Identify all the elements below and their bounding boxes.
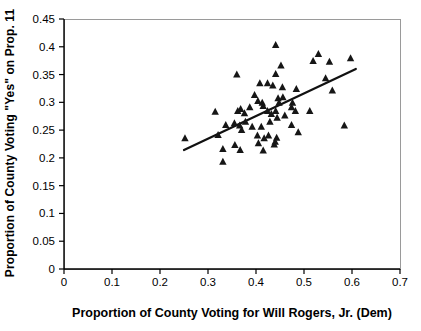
x-tick-label: 0	[61, 276, 67, 288]
scatter-chart: Proportion of County Voting "Yes" on Pro…	[0, 0, 421, 331]
x-axis-title: Proportion of County Voting for Will Rog…	[72, 306, 392, 320]
x-tick-label: 0.2	[152, 276, 168, 288]
y-tick-label: 0.2	[39, 152, 55, 164]
plot-area: 00.10.20.30.40.50.60.700.050.10.150.20.2…	[0, 0, 421, 331]
x-tick-label: 0.6	[344, 276, 360, 288]
y-tick-label: 0.35	[33, 69, 55, 81]
x-tick-label: 0.1	[104, 276, 120, 288]
y-tick-label: 0.25	[33, 124, 55, 136]
x-tick-label: 0.4	[248, 276, 265, 288]
y-tick-label: 0.1	[39, 207, 55, 219]
x-tick-label: 0.7	[392, 276, 408, 288]
y-tick-label: 0.4	[39, 41, 56, 53]
y-tick-label: 0	[49, 263, 55, 275]
y-tick-label: 0.3	[39, 96, 55, 108]
y-tick-label: 0.45	[33, 13, 55, 25]
y-tick-label: 0.15	[33, 180, 55, 192]
x-tick-label: 0.3	[200, 276, 216, 288]
x-tick-label: 0.5	[296, 276, 312, 288]
y-tick-label: 0.05	[33, 235, 55, 247]
